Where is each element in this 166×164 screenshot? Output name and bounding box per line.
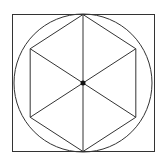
center-point bbox=[81, 81, 86, 86]
geometry-diagram bbox=[0, 0, 166, 164]
